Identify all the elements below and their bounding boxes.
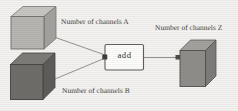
cube-a bbox=[11, 7, 56, 50]
cube-z bbox=[180, 40, 216, 87]
label-input-b: Number of channels B bbox=[62, 87, 130, 95]
edge-b-to-add bbox=[55, 58, 107, 80]
edge-a-to-add bbox=[56, 38, 107, 56]
diagram-canvas: Number of channels A Number of channels … bbox=[0, 0, 238, 111]
edge-add-to-z bbox=[144, 55, 181, 60]
label-input-a: Number of channels A bbox=[61, 18, 129, 26]
op-add-label: add bbox=[105, 50, 144, 60]
label-output-z: Number of channels Z bbox=[155, 24, 222, 32]
cube-b bbox=[11, 53, 56, 100]
